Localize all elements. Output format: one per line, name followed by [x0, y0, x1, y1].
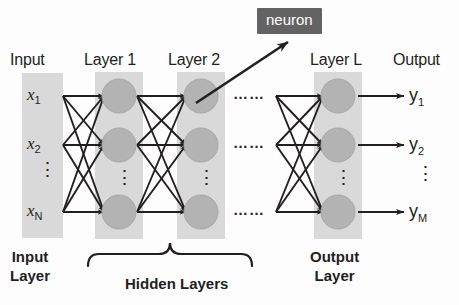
input-label-x1: x1: [27, 86, 41, 106]
layer2-column-vdots: ⋮: [197, 170, 216, 185]
footer-output-layer: Output Layer: [310, 248, 359, 286]
node-layer2-n[interactable]: [184, 195, 218, 229]
neural-network-diagram: Input Layer 1 Layer 2 Layer L Output neu…: [0, 0, 459, 305]
node-layer2-2[interactable]: [184, 128, 218, 162]
footer-hidden-layers: Hidden Layers: [125, 275, 228, 294]
output-label-y2: y2: [409, 135, 424, 157]
node-layer1-1[interactable]: [102, 79, 136, 113]
column-title-layer1: Layer 1: [84, 52, 136, 68]
node-layerL-1[interactable]: [321, 79, 355, 113]
footer-input-layer-line1: Input: [10, 248, 50, 267]
node-layer1-n[interactable]: [102, 195, 136, 229]
hidden-layers-brace: [88, 243, 252, 266]
node-layerL-2[interactable]: [321, 128, 355, 162]
layerL-column-vdots: ⋮: [334, 170, 353, 185]
footer-output-layer-line1: Output: [310, 248, 359, 267]
skip-hdots-row1: ……: [233, 86, 265, 101]
input-label-x2: x2: [27, 135, 41, 155]
node-layerL-m[interactable]: [321, 195, 355, 229]
skip-hdots-row3: ……: [233, 202, 265, 217]
edges-layer1-to-layer2: [137, 96, 186, 212]
network-graphics: [0, 0, 459, 305]
output-label-y1: y1: [409, 86, 424, 108]
column-title-output: Output: [393, 52, 440, 68]
node-layer1-2[interactable]: [102, 128, 136, 162]
skip-hdots-row2: ……: [233, 135, 265, 150]
layer1-column-vdots: ⋮: [115, 170, 134, 185]
column-title-input: Input: [10, 52, 45, 68]
footer-output-layer-line2: Layer: [310, 267, 359, 286]
node-layer2-1[interactable]: [184, 79, 218, 113]
output-arrows: [358, 96, 404, 212]
input-label-xn: xN: [27, 202, 43, 222]
edges-input-to-layer1: [63, 96, 104, 212]
column-title-layer2: Layer 2: [168, 52, 220, 68]
input-column-vdots: ⋮: [38, 162, 57, 177]
footer-input-layer-line2: Layer: [10, 267, 50, 286]
neuron-callout-label[interactable]: neuron: [257, 8, 322, 34]
output-column-vdots: ⋮: [416, 166, 435, 181]
column-title-layerL: Layer L: [310, 52, 362, 68]
edges-to-layerL: [276, 96, 323, 212]
output-label-ym: yM: [409, 202, 427, 224]
footer-input-layer: Input Layer: [10, 248, 50, 286]
